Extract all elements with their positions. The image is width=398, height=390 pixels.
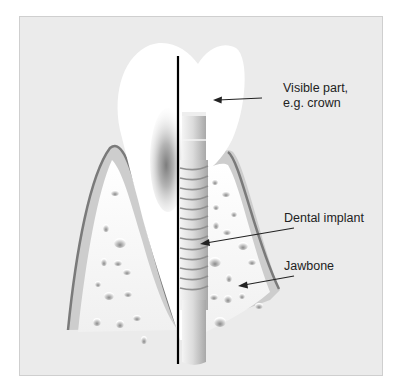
label-jawbone: Jawbone [284, 259, 334, 274]
label-visible-part-line1: Visible part, [283, 81, 348, 96]
label-visible-part-line2: e.g. crown [283, 96, 348, 111]
dental-implant-illustration [0, 0, 398, 390]
label-visible-part: Visible part, e.g. crown [283, 81, 348, 111]
label-dental-implant: Dental implant [284, 211, 364, 226]
dental-implant [180, 112, 208, 365]
